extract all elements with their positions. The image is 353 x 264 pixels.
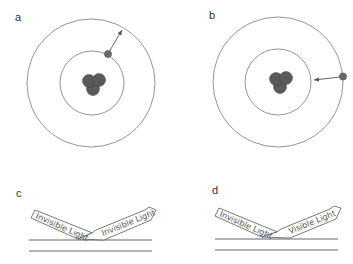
incoming-beam-label: Invisible Light xyxy=(218,209,275,242)
outgoing-beam-label: Invisible Light xyxy=(100,207,157,238)
nucleus-icon xyxy=(270,72,293,94)
reflection-diagram-d: Invisible Light Visible Light xyxy=(215,206,341,250)
electron-icon xyxy=(339,73,346,80)
nucleus-icon xyxy=(83,74,106,96)
incoming-beam-label: Invisible Light xyxy=(34,211,91,244)
electron-icon xyxy=(104,50,111,57)
atom-diagram-b xyxy=(213,17,347,147)
atom-diagram-a xyxy=(27,19,155,147)
transition-arrow xyxy=(109,30,122,52)
transition-arrow xyxy=(314,77,340,80)
diagram-canvas: Invisible Light Invisible Light Invisibl… xyxy=(0,0,353,264)
reflection-diagram-c: Invisible Light Invisible Light xyxy=(29,207,157,251)
